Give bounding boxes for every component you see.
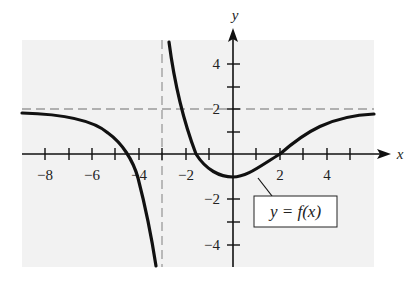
svg-text:y = f(x): y = f(x) <box>268 202 321 221</box>
y-tick-label: −4 <box>204 237 220 253</box>
x-tick-label: 4 <box>323 167 331 183</box>
x-tick-label: −2 <box>178 167 194 183</box>
x-axis-label: x <box>396 146 404 162</box>
y-tick-label: 2 <box>213 101 221 117</box>
y-axis-label: y <box>230 7 239 23</box>
x-tick-label: 2 <box>276 167 284 183</box>
x-tick-label: −6 <box>84 167 100 183</box>
function-label: y = f(x) <box>254 196 337 227</box>
y-tick-label: 4 <box>213 56 221 72</box>
x-tick-label: −8 <box>37 167 53 183</box>
y-tick-label: −2 <box>204 191 220 207</box>
function-graph: −8 −6 −4 −2 2 4 x 4 2 −2 −4 y y = f(x <box>0 0 415 285</box>
